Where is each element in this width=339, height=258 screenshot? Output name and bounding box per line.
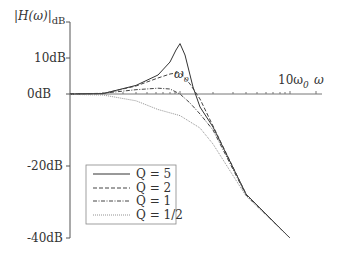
legend-item-q-half: Q = 1/2 [136,208,183,222]
legend: Q = 5 Q = 2 Q = 1 Q = 1/2 [86,165,183,224]
legend-item-q1: Q = 1 [136,194,171,208]
y-tick-label-10: 10dB [34,51,66,65]
y-tick-label-m20: -20dB [27,159,63,173]
y-axis-label: |H(ω)|dB [14,9,65,26]
w0-annotation: ω0 [174,67,189,84]
legend-item-q5: Q = 5 [136,167,171,181]
y-tick-label-0: 0dB [27,87,51,101]
legend-item-q2: Q = 2 [136,181,171,195]
tenw0-label: 10ω0 [278,73,309,90]
omega-label: ω [314,73,324,87]
bode-chart: |H(ω)|dB 10dB 0dB -20dB -40dB ω0 10ω0 ω … [0,0,339,258]
y-tick-label-m40: -40dB [27,231,63,245]
